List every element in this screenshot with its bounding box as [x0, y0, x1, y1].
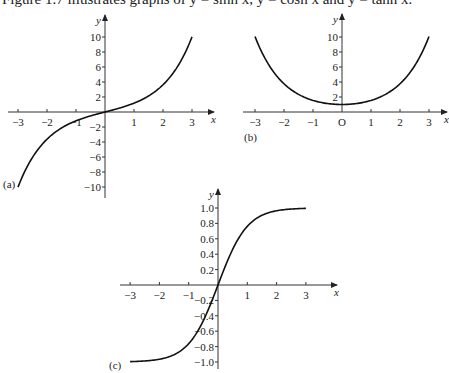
panel-label: (c) — [109, 359, 122, 372]
y-tick-label: 1.0 — [200, 202, 214, 214]
y-axis-label: y — [208, 188, 214, 200]
x-axis-label: x — [443, 113, 449, 125]
x-tick-label: −3 — [12, 116, 24, 128]
y-tick-label: 6 — [96, 61, 102, 73]
y-tick-label: 10 — [327, 31, 339, 43]
y-tick-label: 4 — [96, 76, 102, 88]
x-tick-label: −2 — [41, 116, 53, 128]
y-tick-label: 2 — [96, 91, 102, 103]
x-tick-label: 3 — [189, 116, 195, 128]
x-tick-label: −2 — [154, 289, 166, 301]
x-tick-label: 1 — [368, 116, 374, 128]
y-axis-label: y — [95, 14, 101, 26]
y-tick-label: 0.4 — [200, 248, 214, 260]
y-tick-label: −10 — [84, 181, 102, 193]
figure-graphs: xy−3−2−1123108642−2−4−6−8−10(a) xy−3−2−1… — [0, 0, 449, 373]
x-tick-label: 2 — [397, 116, 403, 128]
y-tick-label: 6 — [333, 61, 339, 73]
x-tick-label: −2 — [278, 116, 290, 128]
y-tick-label: −2 — [89, 121, 101, 133]
x-tick-label: O — [338, 116, 346, 128]
x-tick-label: 2 — [160, 116, 166, 128]
x-axis-label: x — [333, 286, 339, 298]
y-tick-label: 0.6 — [200, 233, 214, 245]
graph-b: xy−3−2−1O123108642(b) — [243, 13, 449, 144]
y-tick-label: 8 — [333, 46, 339, 58]
y-tick-label: −6 — [89, 151, 101, 163]
graph-c: xy−3−2−11231.00.80.60.40.2−0.2−0.4−0.6−0… — [109, 188, 339, 372]
y-tick-label: 0.8 — [200, 217, 214, 229]
graph-a: xy−3−2−1123108642−2−4−6−8−10(a) — [3, 14, 216, 198]
x-axis-label: x — [210, 113, 216, 125]
y-tick-label: 10 — [90, 31, 102, 43]
panel-label: (b) — [244, 131, 257, 144]
x-tick-label: 3 — [303, 289, 309, 301]
x-tick-label: −1 — [307, 116, 319, 128]
y-axis-label: y — [332, 13, 338, 25]
y-tick-label: −0.8 — [194, 341, 214, 353]
y-tick-label: −4 — [89, 136, 101, 148]
x-tick-label: −1 — [183, 289, 195, 301]
y-tick-label: −1.0 — [194, 356, 214, 368]
y-tick-label: 4 — [333, 76, 339, 88]
y-tick-label: 2 — [333, 91, 339, 103]
y-tick-label: 0.2 — [200, 264, 214, 276]
x-tick-label: 2 — [274, 289, 280, 301]
x-tick-label: 3 — [426, 116, 432, 128]
panel-label: (a) — [3, 178, 16, 191]
y-tick-label: 8 — [96, 46, 102, 58]
x-tick-label: 1 — [131, 116, 137, 128]
y-tick-label: −8 — [89, 166, 101, 178]
x-tick-label: −3 — [249, 116, 261, 128]
x-tick-label: −3 — [124, 289, 136, 301]
x-tick-label: 1 — [245, 289, 251, 301]
